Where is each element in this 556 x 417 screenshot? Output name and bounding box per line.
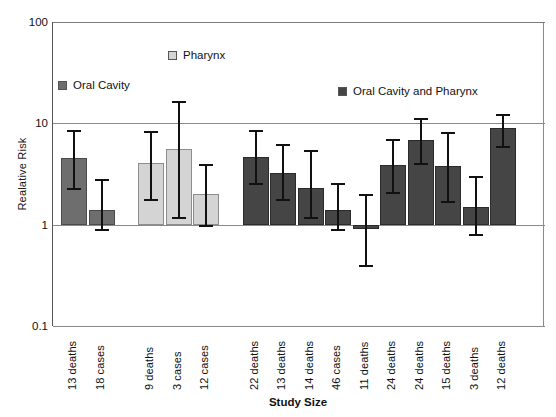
x-tick-label: 11 deaths: [358, 342, 370, 390]
legend-item-pharynx: Pharynx: [168, 50, 225, 62]
error-bar-cap-lower: [359, 265, 373, 267]
gridline: [53, 326, 545, 327]
error-bar-line: [337, 183, 339, 230]
error-bar-cap-lower: [67, 188, 81, 190]
y-axis-ticks: 1001010.1: [10, 0, 48, 417]
x-tick-label: 13 deaths: [275, 341, 287, 390]
error-bar-line: [447, 132, 449, 202]
legend-item-oral-cavity-and-pharynx: Oral Cavity and Pharynx: [338, 86, 478, 98]
error-bar-line: [101, 179, 103, 229]
x-tick-label: 24 deaths: [413, 341, 425, 390]
gridline: [53, 22, 545, 23]
error-bar-cap-upper: [414, 118, 428, 120]
x-tick-label: 24 deaths: [385, 341, 397, 390]
error-bar-line: [150, 131, 152, 199]
error-bar-line: [282, 144, 284, 199]
y-tick-label: 1: [18, 219, 48, 231]
error-bar-line: [178, 101, 180, 216]
error-bar-cap-lower: [386, 192, 400, 194]
x-tick-label: 46 cases: [330, 345, 342, 390]
legend-swatch-icon: [338, 87, 347, 96]
x-tick-label: 9 deaths: [143, 347, 155, 390]
x-tick-label: 14 deaths: [303, 341, 315, 390]
legend-label: Pharynx: [183, 50, 225, 62]
error-bar-cap-lower: [496, 146, 510, 148]
error-bar-cap-lower: [469, 234, 483, 236]
error-bar-line: [73, 130, 75, 188]
error-bar-cap-lower: [304, 217, 318, 219]
error-bar-cap-upper: [496, 114, 510, 116]
legend-swatch-icon: [58, 81, 67, 90]
error-bar-cap-upper: [172, 101, 186, 103]
x-tick-label: 15 deaths: [440, 341, 452, 390]
error-bar-cap-upper: [386, 139, 400, 141]
legend-swatch-icon: [168, 51, 177, 60]
y-tick-label: 10: [18, 117, 48, 129]
error-bar-cap-lower: [199, 225, 213, 227]
plot-area: [52, 22, 544, 326]
error-bar-cap-upper: [95, 179, 109, 181]
gridline: [53, 225, 545, 226]
x-axis-title: Study Size: [52, 396, 544, 408]
legend-label: Oral Cavity: [73, 80, 130, 92]
x-tick-label: 12 cases: [198, 345, 210, 390]
error-bar-line: [475, 176, 477, 234]
error-bar-cap-upper: [441, 132, 455, 134]
error-bar-cap-lower: [441, 201, 455, 203]
error-bar-line: [392, 139, 394, 192]
error-bar-cap-lower: [276, 199, 290, 201]
y-tick-label: 0.1: [18, 320, 48, 332]
error-bar-cap-lower: [414, 163, 428, 165]
x-tick-label: 13 deaths: [66, 341, 78, 390]
x-tick-label: 12 deaths: [495, 341, 507, 390]
error-bar-cap-upper: [144, 131, 158, 133]
error-bar-cap-lower: [331, 229, 345, 231]
legend-label: Oral Cavity and Pharynx: [353, 86, 478, 98]
error-bar-cap-lower: [172, 217, 186, 219]
error-bar-cap-lower: [249, 183, 263, 185]
plot-right-border: [543, 22, 544, 326]
error-bar-cap-lower: [95, 229, 109, 231]
y-tick-label: 100: [18, 16, 48, 28]
error-bar-line: [310, 150, 312, 217]
x-tick-label: 3 cases: [171, 351, 183, 390]
error-bar-line: [502, 114, 504, 146]
legend-item-oral-cavity: Oral Cavity: [58, 80, 130, 92]
error-bar-cap-upper: [331, 183, 345, 185]
relative-risk-chart: Realative Risk 1001010.1 13 deaths18 cas…: [0, 0, 556, 417]
error-bar-line: [255, 130, 257, 183]
error-bar-line: [205, 164, 207, 225]
gridline: [53, 123, 545, 124]
error-bar-cap-lower: [144, 199, 158, 201]
error-bar-line: [420, 118, 422, 162]
x-tick-label: 18 cases: [94, 345, 106, 390]
x-axis-ticks: 13 deaths18 cases9 deaths3 cases12 cases…: [52, 330, 544, 390]
error-bar-cap-upper: [249, 130, 263, 132]
error-bar-cap-upper: [304, 150, 318, 152]
error-bar-cap-upper: [67, 130, 81, 132]
x-tick-label: 3 deaths: [468, 347, 480, 390]
error-bar-cap-upper: [359, 194, 373, 196]
error-bar-line: [365, 194, 367, 265]
x-tick-label: 22 deaths: [248, 341, 260, 390]
error-bar-cap-upper: [199, 164, 213, 166]
error-bar-cap-upper: [469, 176, 483, 178]
error-bar-cap-upper: [276, 144, 290, 146]
